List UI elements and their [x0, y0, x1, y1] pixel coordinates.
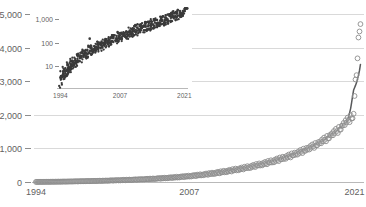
inset-data-point	[152, 27, 154, 29]
inset-data-point	[62, 72, 64, 74]
main-data-point	[350, 116, 355, 121]
inset-data-point	[70, 71, 72, 73]
inset-data-point	[183, 12, 185, 14]
inset-data-point	[153, 25, 155, 27]
inset-x-tick-label: 2021	[177, 92, 192, 99]
main-y-tick-label: 5,000	[0, 10, 22, 20]
main-data-point	[356, 35, 361, 40]
main-data-point	[357, 29, 362, 34]
inset-data-point	[121, 37, 123, 39]
main-y-tick-label: 3,000	[0, 77, 22, 87]
inset-data-point	[161, 19, 163, 21]
inset-data-point	[87, 55, 89, 57]
inset-y-tick-label: 100	[41, 40, 53, 47]
inset-data-point	[66, 74, 68, 76]
inset-y-tick-label: 10	[45, 63, 53, 70]
main-x-tick-label: 2007	[179, 187, 199, 197]
inset-data-point	[64, 67, 66, 69]
main-data-point	[351, 111, 356, 116]
main-y-axis-labels: 01,0002,0003,0004,0005,000	[0, 10, 22, 188]
inset-data-point	[171, 20, 173, 22]
main-data-point	[352, 94, 357, 99]
inset-data-point	[156, 19, 158, 21]
inset-data-point	[171, 13, 173, 15]
inset-x-tick-label: 2007	[113, 92, 128, 99]
inset-data-point	[82, 50, 84, 52]
inset-data-point	[107, 40, 109, 42]
inset-data-point	[141, 22, 143, 24]
inset-data-point	[64, 76, 66, 78]
inset-data-point	[112, 37, 114, 39]
inset-outlier-point	[88, 37, 91, 40]
inset-data-point	[150, 18, 152, 20]
inset-data-point	[165, 23, 167, 25]
inset-data-point	[81, 61, 83, 63]
inset-data-point	[101, 47, 103, 49]
inset-data-point	[59, 70, 61, 72]
main-x-tick-label: 1994	[26, 187, 46, 197]
inset-data-point	[178, 18, 180, 20]
main-data-point	[354, 73, 359, 78]
inset-chart-plot: 101001,000 199420072021	[30, 0, 192, 101]
inset-data-point	[69, 58, 71, 60]
inset-y-axis-labels: 101001,000	[35, 16, 53, 70]
inset-data-point	[86, 48, 88, 50]
inset-data-point	[59, 87, 61, 89]
main-x-tick-label: 2021	[345, 187, 365, 197]
inset-data-point	[126, 36, 128, 38]
inset-data-point	[167, 23, 169, 25]
inset-data-point	[77, 54, 79, 56]
inset-data-point	[101, 42, 103, 44]
inset-data-point	[186, 7, 188, 9]
inset-data-point	[110, 43, 112, 45]
inset-x-tick-label: 1994	[53, 92, 68, 99]
inset-data-point	[182, 15, 184, 17]
main-data-point	[358, 22, 363, 27]
inset-data-point	[76, 58, 78, 60]
inset-data-point	[148, 21, 150, 23]
inset-data-point	[176, 12, 178, 14]
main-data-point	[355, 56, 360, 61]
main-y-tick-label: 0	[17, 178, 22, 188]
inset-x-axis-labels: 199420072021	[53, 92, 192, 99]
inset-data-point	[61, 84, 63, 86]
inset-data-point	[165, 21, 167, 23]
inset-data-point	[92, 51, 94, 53]
main-y-tick-label: 2,000	[0, 111, 22, 121]
inset-data-point	[167, 20, 169, 22]
inset-data-point	[64, 70, 66, 72]
chart-figure: 01,0002,0003,0004,0005,000 199420072021 …	[0, 0, 366, 207]
inset-data-point	[94, 52, 96, 54]
inset-data-point	[131, 32, 133, 34]
inset-chart-panel: 101001,000 199420072021	[30, 0, 192, 101]
inset-data-point	[145, 25, 147, 27]
main-y-tick-label: 1,000	[0, 144, 22, 154]
inset-data-markers	[58, 7, 188, 89]
inset-data-point	[112, 41, 114, 43]
inset-data-point	[81, 58, 83, 60]
main-y-tick-label: 4,000	[0, 44, 22, 54]
inset-y-tick-dashes	[55, 20, 59, 67]
inset-data-point	[66, 61, 68, 63]
inset-y-tick-label: 1,000	[35, 16, 53, 23]
inset-data-point	[177, 9, 179, 11]
inset-data-point	[97, 46, 99, 48]
inset-data-point	[146, 29, 148, 31]
inset-data-point	[127, 26, 129, 28]
main-x-axis-labels: 199420072021	[26, 187, 365, 197]
inset-data-point	[76, 65, 78, 67]
inset-data-point	[71, 56, 73, 58]
inset-data-point	[97, 50, 99, 52]
inset-data-point	[100, 50, 102, 52]
inset-data-point	[87, 44, 89, 46]
inset-data-point	[62, 66, 64, 68]
inset-data-point	[103, 48, 105, 50]
inset-data-point	[136, 34, 138, 36]
inset-data-point	[128, 36, 130, 38]
inset-data-point	[121, 40, 123, 42]
inset-data-point	[127, 38, 129, 40]
inset-data-point	[159, 15, 161, 17]
